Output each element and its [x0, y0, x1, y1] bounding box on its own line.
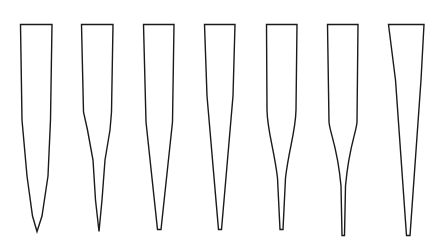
figure-container [0, 0, 447, 251]
tapered-profiles-diagram [0, 0, 447, 251]
